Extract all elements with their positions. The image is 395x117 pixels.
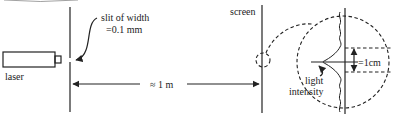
laser-label: laser (5, 71, 25, 82)
intensity-label-line2: intensity (289, 86, 323, 97)
zoom-region-small-circle (256, 53, 270, 67)
intensity-label-line1: light (305, 75, 324, 86)
distance-label: ≈ 1 m (150, 79, 173, 90)
zoom-connector (266, 24, 312, 53)
distance-dimension: ≈ 1 m (73, 79, 259, 90)
laser: laser (3, 52, 61, 82)
slit-pointer-arrow (76, 18, 97, 60)
laser-body (3, 52, 55, 67)
truncated-caption (4, 0, 78, 2)
single-slit-diffraction-diagram: laser slit of width =0.1 mm ≈ 1 m screen (0, 0, 395, 117)
laser-nozzle (55, 56, 61, 63)
intensity-annotation: light intensity (289, 66, 324, 97)
slit-annotation: slit of width =0.1 mm (76, 12, 149, 60)
fringe-width-label: =1cm (358, 57, 381, 68)
slit-label-line1: slit of width (101, 12, 149, 23)
screen: screen (230, 5, 270, 113)
screen-label: screen (230, 6, 256, 17)
slit-label-line2: =0.1 mm (106, 24, 142, 35)
